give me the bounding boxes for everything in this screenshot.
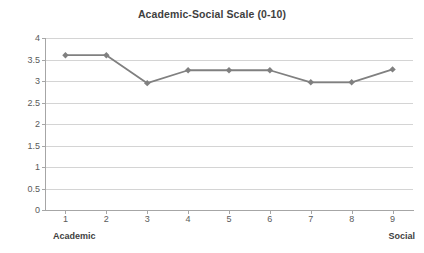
y-tick-mark (42, 167, 45, 168)
y-tick-mark (42, 103, 45, 104)
plot-area (45, 38, 413, 210)
y-tick-mark (42, 124, 45, 125)
grid-line (45, 146, 413, 147)
y-axis-line (45, 38, 46, 211)
y-tick-mark (42, 60, 45, 61)
chart-container: Academic-Social Scale (0-10) Grade Point… (0, 0, 424, 253)
grid-line (45, 189, 413, 190)
chart-title: Academic-Social Scale (0-10) (0, 8, 424, 20)
x-tick-label: 7 (296, 214, 326, 224)
x-tick-label: 2 (91, 214, 121, 224)
x-tick-label: 4 (173, 214, 203, 224)
x-tick-label: 6 (255, 214, 285, 224)
y-tick-mark (42, 146, 45, 147)
x-tick-label: 8 (337, 214, 367, 224)
x-tick-label: 1 (50, 214, 80, 224)
x-tick-label: 9 (378, 214, 408, 224)
y-tick-label: 3.5 (10, 55, 40, 65)
y-tick-mark (42, 38, 45, 39)
y-tick-mark (42, 189, 45, 190)
y-tick-label: 1.5 (10, 141, 40, 151)
grid-line (45, 81, 413, 82)
y-tick-label: 2 (10, 119, 40, 129)
y-tick-mark (42, 81, 45, 82)
y-tick-label: 1 (10, 162, 40, 172)
y-tick-label: 4 (10, 33, 40, 43)
y-tick-mark (42, 210, 45, 211)
y-tick-label: 0.5 (10, 184, 40, 194)
grid-line (45, 38, 413, 39)
x-tick-label: 5 (214, 214, 244, 224)
grid-line (45, 103, 413, 104)
grid-line (45, 60, 413, 61)
grid-line (45, 124, 413, 125)
x-tick-label: 3 (132, 214, 162, 224)
y-tick-label: 2.5 (10, 98, 40, 108)
x-axis-high-end-label: Social (345, 231, 415, 242)
y-tick-label: 3 (10, 76, 40, 86)
grid-line (45, 167, 413, 168)
x-axis-low-end-label: Academic (53, 231, 123, 242)
y-tick-label: 0 (10, 205, 40, 215)
